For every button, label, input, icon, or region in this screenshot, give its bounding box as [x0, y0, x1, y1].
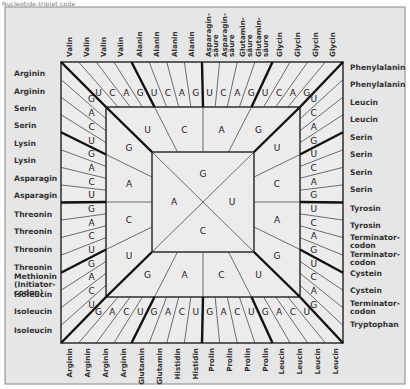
amino-acid-line: Valin	[99, 37, 108, 57]
amino-acid-line: Leucin	[331, 348, 340, 374]
ring3-base-top: G	[248, 88, 255, 98]
ring2-base-top: U	[144, 125, 151, 135]
ring3-divider	[202, 297, 203, 343]
amino-acid-bottom: Histidin	[173, 348, 182, 379]
amino-acid-line: Cystein	[350, 286, 382, 295]
amino-acid-line: Arginin	[65, 348, 74, 377]
amino-acid-line: Prolin	[207, 348, 216, 372]
ring3-base-bottom: C	[290, 307, 296, 317]
amino-acid-line: Glutamin	[155, 348, 164, 385]
amino-acid-bottom: Glutamin	[155, 348, 164, 385]
ring3-base-left: G	[88, 204, 95, 214]
amino-acid-line: Arginin	[14, 69, 45, 78]
ring2-base-left: C	[126, 215, 132, 225]
ring3-base-right: C	[311, 272, 317, 282]
amino-acid-line: Valin	[82, 37, 91, 57]
ring3-base-bottom: A	[220, 307, 227, 317]
amino-acid-line: Serin	[350, 133, 372, 142]
amino-acid-top: Glycin	[293, 32, 302, 57]
ring3-base-bottom: G	[95, 307, 102, 317]
amino-acid-line: codon	[350, 258, 376, 267]
ring3-base-top: U	[262, 88, 269, 98]
amino-acid-line: säure	[261, 34, 270, 57]
ring3-divider	[61, 202, 106, 203]
amino-acid-line: Alanin	[187, 31, 196, 57]
amino-acid-line: Alanin	[135, 31, 144, 57]
ring3-divider	[300, 202, 343, 203]
ring3-base-left: C	[88, 286, 94, 296]
amino-acid-line: codon	[350, 241, 376, 250]
amino-acid-right: Serin	[350, 150, 372, 159]
amino-acid-top: Valin	[82, 37, 91, 57]
amino-acid-right: Phenylalanin	[350, 80, 405, 89]
ring3-base-left: G	[88, 94, 95, 104]
amino-acid-line: Leucin	[350, 98, 378, 107]
amino-acid-line: Glutamin	[137, 348, 146, 385]
center-base-top: G	[200, 169, 207, 179]
ring2-base-bottom: G	[144, 270, 151, 280]
ring3-base-right: G	[310, 300, 317, 310]
amino-acid-line: Valin	[116, 37, 125, 57]
ring3-base-left: U	[88, 300, 95, 310]
amino-acid-left: Lysin	[14, 156, 36, 165]
amino-acid-line: Tryptophan	[350, 320, 399, 329]
ring3-base-right: U	[310, 149, 317, 159]
ring3-base-top: A	[290, 88, 297, 98]
amino-acid-bottom: Leucin	[331, 348, 340, 374]
ring3-base-bottom: A	[165, 307, 172, 317]
amino-acid-line: Histidin	[191, 348, 200, 379]
amino-acid-right: Phenylalanin	[350, 63, 405, 72]
amino-acid-line: Valin	[65, 37, 74, 57]
center-base-right: U	[229, 197, 236, 207]
ring3-base-left: U	[88, 136, 95, 146]
ring3-base-right: A	[311, 286, 318, 296]
ring3-base-top: C	[220, 88, 226, 98]
amino-acid-left: Serin	[14, 104, 36, 113]
ring3-base-bottom: C	[123, 307, 129, 317]
ring2-base-bottom: C	[218, 270, 224, 280]
amino-acid-left: Arginin	[14, 87, 45, 96]
ring3-base-right: G	[310, 190, 317, 200]
amino-acid-left: Arginin	[14, 69, 45, 78]
amino-acid-line: Threonin	[14, 245, 52, 254]
ring3-base-left: G	[88, 259, 95, 269]
amino-acid-line: Tyrosin	[350, 204, 381, 213]
ring3-base-left: A	[89, 218, 96, 228]
amino-acid-line: Lysin	[14, 156, 36, 165]
ring3-base-right: C	[311, 218, 317, 228]
amino-acid-line: Glycin	[293, 32, 302, 57]
ring3-base-top: A	[234, 88, 241, 98]
ring3-base-right: A	[311, 177, 318, 187]
amino-acid-right: Tryptophan	[350, 320, 399, 329]
amino-acid-line: Threonin	[14, 263, 52, 272]
amino-acid-line: Glycin	[311, 32, 320, 57]
amino-acid-bottom: Leucin	[313, 348, 322, 374]
ring3-base-top: C	[109, 88, 115, 98]
amino-acid-top: Glycin	[328, 32, 337, 57]
ring3-base-left: A	[89, 272, 96, 282]
ring2-base-right: C	[274, 179, 280, 189]
ring3-base-bottom: G	[262, 307, 269, 317]
amino-acid-left: Threonin	[14, 245, 52, 254]
amino-acid-line: Glycin	[275, 32, 284, 57]
amino-acid-right: Cystein	[350, 286, 382, 295]
ring3-base-left: U	[88, 245, 95, 255]
amino-acid-line: Leucin	[350, 115, 378, 124]
amino-acid-right: Leucin	[350, 115, 378, 124]
ring3-base-right: A	[311, 122, 318, 132]
amino-acid-right: Serin	[350, 133, 372, 142]
amino-acid-line: Arginin	[119, 348, 128, 377]
ring2-base-left: G	[126, 143, 133, 153]
amino-acid-line: Isoleucin	[14, 290, 52, 299]
ring3-base-left: G	[88, 149, 95, 159]
amino-acid-left: Lysin	[14, 139, 36, 148]
ring2-base-top: A	[218, 125, 225, 135]
amino-acid-left: Asparagin	[14, 174, 57, 183]
ring3-base-right: U	[310, 204, 317, 214]
amino-acid-top: Valin	[65, 37, 74, 57]
amino-acid-line: Tyrosin	[350, 221, 381, 230]
ring3-base-bottom: C	[234, 307, 240, 317]
amino-acid-left: Isoleucin	[14, 326, 52, 335]
ring3-base-right: C	[311, 163, 317, 173]
ring3-base-top: U	[206, 88, 213, 98]
